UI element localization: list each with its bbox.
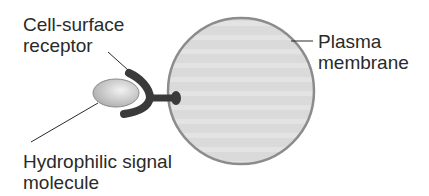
- receptor-label-line2: receptor: [23, 35, 124, 56]
- signal-label-line1: Hydrophilic signal: [23, 151, 172, 172]
- hydrophilic-signal-molecule: [93, 79, 139, 107]
- signal-leader-line: [31, 103, 98, 142]
- membrane-label-line2: membrane: [318, 52, 409, 73]
- membrane-label-line1: Plasma: [318, 31, 409, 52]
- signal-label-line2: molecule: [23, 172, 172, 193]
- signal-label: Hydrophilic signal molecule: [23, 151, 172, 193]
- receptor-label-line1: Cell-surface: [23, 14, 124, 35]
- receptor-label: Cell-surface receptor: [23, 14, 124, 56]
- plasma-membrane: [168, 18, 314, 164]
- cell: [168, 18, 314, 164]
- membrane-label: Plasma membrane: [318, 31, 409, 73]
